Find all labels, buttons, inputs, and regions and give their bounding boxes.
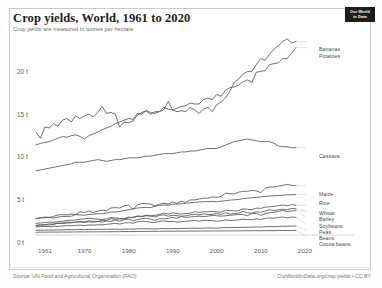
- x-axis-tick: 1961: [38, 247, 52, 254]
- series-label-connector: [296, 211, 306, 218]
- line-chart-svg: [0, 0, 362, 262]
- series-label-potatoes[interactable]: Potatoes: [319, 53, 340, 59]
- source-note: Source: UN Food and Agricultural Organiz…: [13, 273, 136, 279]
- series-line-beans: [36, 226, 296, 230]
- series-label-beans[interactable]: Beans: [319, 235, 334, 241]
- y-axis-tick: 15 t: [17, 111, 28, 118]
- series-line-cocoa-beans: [36, 230, 296, 232]
- series-label-connector: [296, 217, 306, 223]
- x-axis-tick: 1990: [166, 247, 180, 254]
- series-line-bananas: [36, 39, 296, 138]
- x-axis-tick: 1980: [122, 247, 136, 254]
- y-axis-tick: 0 t: [17, 239, 24, 246]
- footer-divider: [12, 267, 372, 268]
- chart-screenshot: Crop yields, World, 1961 to 2020 Crop yi…: [0, 0, 382, 288]
- x-axis-tick: 2020: [298, 247, 312, 254]
- y-axis-tick: 10 t: [17, 153, 28, 160]
- series-label-cassava[interactable]: Cassava: [319, 153, 340, 159]
- y-axis-tick: 5 t: [17, 196, 24, 203]
- series-label-bananas[interactable]: Bananas: [319, 46, 340, 52]
- x-axis-tick: 1970: [78, 247, 92, 254]
- y-axis-tick: 20 t: [17, 68, 28, 75]
- series-line-cassava: [36, 139, 296, 171]
- attribution-note: OurWorldInData.org/crop-yields • CC BY: [278, 273, 371, 279]
- series-label-peas[interactable]: Peas: [319, 229, 331, 235]
- series-label-cocoa-beans[interactable]: Cocoa beans: [319, 241, 351, 247]
- x-axis-tick: 2000: [210, 247, 224, 254]
- series-label-connector: [296, 226, 306, 230]
- series-label-wheat[interactable]: Wheat: [319, 210, 334, 216]
- x-axis-tick: 2010: [254, 247, 268, 254]
- series-label-barley[interactable]: Barley: [319, 216, 334, 222]
- series-label-rice[interactable]: Rice: [319, 200, 330, 206]
- plot-area: [0, 0, 362, 262]
- series-label-connector: [296, 209, 306, 212]
- series-label-soybeans[interactable]: Soybeans: [319, 223, 343, 229]
- series-label-maize[interactable]: Maize: [319, 191, 333, 197]
- series-line-potatoes: [36, 47, 296, 145]
- series-line-soybeans: [36, 211, 296, 226]
